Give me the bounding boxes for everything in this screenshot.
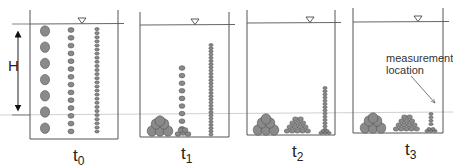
water-surface-icon xyxy=(191,19,199,25)
water-surface-icon xyxy=(78,18,86,24)
particles-t1 xyxy=(147,44,213,137)
annotation-line-1: measurement xyxy=(386,52,453,64)
annotation-line-2: location xyxy=(386,64,453,76)
time-label-t0: t0 xyxy=(73,146,84,166)
measurement-arrow-icon xyxy=(411,76,435,103)
time-label-t1: t1 xyxy=(181,144,192,166)
water-surface-icon xyxy=(414,16,422,22)
time-label-sub: 1 xyxy=(186,152,193,166)
settling-diagram: H measurement location t0 t1 t2 t3 xyxy=(0,0,453,166)
water-surface-icon xyxy=(306,17,314,23)
time-label-t3: t3 xyxy=(405,140,416,162)
time-label-sub: 2 xyxy=(297,150,304,164)
particles-t3 xyxy=(360,76,437,133)
particles-t2 xyxy=(253,87,331,136)
panel-t1 xyxy=(140,12,235,137)
time-label-sub: 3 xyxy=(410,148,417,162)
diagram-canvas xyxy=(0,0,453,166)
time-label-t2: t2 xyxy=(292,142,303,164)
time-label-sub: 0 xyxy=(78,154,85,166)
particles-t0 xyxy=(40,26,99,134)
measurement-location-annotation: measurement location xyxy=(386,52,453,76)
height-label: H xyxy=(8,57,19,74)
